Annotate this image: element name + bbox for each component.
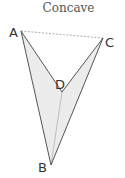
quadrilateral-fill bbox=[21, 31, 103, 165]
vertex-label-c: C bbox=[105, 35, 114, 50]
vertex-label-a: A bbox=[9, 25, 18, 40]
concave-quadrilateral-diagram: A C D B bbox=[0, 0, 125, 178]
diagonal-ac-dashed bbox=[21, 31, 103, 38]
vertex-label-b: B bbox=[38, 160, 47, 175]
vertex-label-d: D bbox=[55, 77, 65, 92]
